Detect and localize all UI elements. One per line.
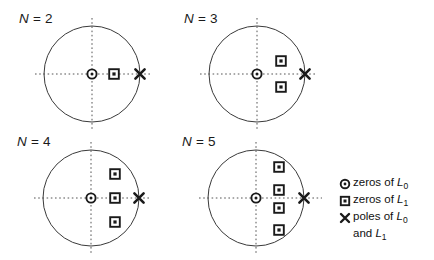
square-dot-marker-icon — [337, 194, 353, 208]
legend-label-poles-prefix: poles of — [353, 210, 396, 222]
legend-item-poles: poles of L0and L1 — [337, 210, 434, 236]
panel-n4-graphics — [34, 142, 151, 255]
panel-n2-label-value: 2 — [45, 11, 53, 26]
panel-n3-graphics — [200, 18, 317, 131]
panel-n3-label-eq: = — [194, 11, 210, 26]
panel-n5-label: N = 5 — [182, 134, 216, 149]
legend-label-zeros-l1: zeros of L1 — [353, 193, 408, 210]
legend-label-zeros-l0-subscript: 0 — [404, 181, 409, 191]
panel-n3-zero-L0-marker — [252, 69, 261, 78]
legend-item-zeros-l1: zeros of L1 — [337, 193, 434, 209]
panel-n2-zero-L1-marker — [109, 69, 119, 79]
panel-n2-zero-L0-marker — [87, 69, 96, 78]
panel-n3-label-n: N — [184, 11, 194, 26]
panel-n3-zero-L1-marker — [276, 56, 286, 66]
legend-label-poles-subscript: 0 — [403, 215, 408, 225]
panel-n4-zero-L1-marker — [110, 217, 120, 227]
panel-n5-label-eq: = — [192, 134, 208, 149]
panel-n4-zero-L1-marker — [110, 193, 120, 203]
panel-n4-zero-L0-marker — [86, 193, 95, 202]
panel-n3-label-value: 3 — [210, 11, 218, 26]
legend-item-zeros-l0: zeros of L0 — [337, 176, 434, 192]
legend-label-zeros-l0-prefix: zeros of — [353, 176, 397, 188]
panel-n5-zero-L1-marker — [274, 225, 284, 235]
cross-icon-svg — [337, 211, 353, 225]
panel-n3-zero-L1-marker — [276, 82, 286, 92]
panel-n4-label-eq: = — [27, 134, 43, 149]
panel-n2-label-eq: = — [29, 11, 45, 26]
panel-n5-zero-L1-marker — [274, 203, 284, 213]
legend: zeros of L0 zeros of L1 poles of L0and L… — [337, 176, 434, 237]
panel-n5-label-value: 5 — [208, 134, 216, 149]
circle-dot-marker-icon — [337, 177, 353, 191]
panel-n4-label: N = 4 — [17, 134, 51, 149]
legend-label-zeros-l0: zeros of L0 — [353, 176, 408, 193]
legend-label-zeros-l1-prefix: zeros of — [353, 193, 397, 205]
panel-n5-zero-L1-marker — [274, 162, 284, 172]
panel-n4-label-value: 4 — [43, 134, 51, 149]
panel-n5-label-n: N — [182, 134, 192, 149]
legend-label-poles-line2-subscript: 1 — [382, 232, 387, 242]
legend-label-zeros-l1-subscript: 1 — [404, 198, 409, 208]
panel-n5-zero-L1-marker — [274, 185, 284, 195]
panel-n2-label: N = 2 — [19, 11, 53, 26]
panel-n2-label-n: N — [19, 11, 29, 26]
panel-n4-zero-L1-marker — [110, 169, 120, 179]
legend-label-poles: poles of L0and L1 — [353, 210, 408, 244]
panel-n4-label-n: N — [17, 134, 27, 149]
panel-n2-graphics — [35, 18, 152, 131]
cross-marker-icon — [337, 211, 353, 225]
panel-n5-graphics — [199, 142, 322, 255]
circle-dot-icon-svg — [337, 177, 353, 191]
panel-n5-zero-L0-marker — [251, 193, 260, 202]
square-dot-icon-svg — [337, 194, 353, 208]
panel-n3-label: N = 3 — [184, 11, 218, 26]
legend-label-poles-line2-prefix: and — [353, 227, 375, 239]
figure-container: N = 2 N = 3 N = 4 N = 5 zeros of L0 — [0, 0, 434, 260]
